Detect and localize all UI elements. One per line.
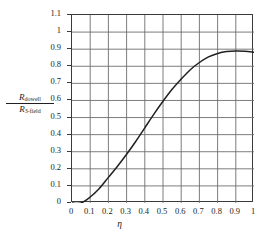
x-axis-label: η xyxy=(0,219,273,229)
x-axis-label-text: η xyxy=(117,219,122,229)
y-tick-label: 0.2 xyxy=(0,162,66,172)
y-tick-label: 0.7 xyxy=(0,76,66,86)
y-tick-label: 0.8 xyxy=(0,59,66,69)
y-tick-label: 0.4 xyxy=(0,128,66,138)
y-tick-label: 0.6 xyxy=(0,93,66,103)
chart-figure: Rdowell R3-field 00.10.20.30.40.50.60.70… xyxy=(0,0,273,243)
y-tick-label: 0.3 xyxy=(0,145,66,155)
y-tick-label: 0.1 xyxy=(0,179,66,189)
plot-area xyxy=(71,14,253,202)
data-curve xyxy=(72,15,254,203)
series-line xyxy=(72,51,254,203)
y-tick-label: 0.9 xyxy=(0,42,66,52)
y-tick-label: 0 xyxy=(0,196,66,206)
x-tick-label: 1 xyxy=(242,206,264,216)
y-tick-label: 1.1 xyxy=(0,8,66,18)
y-tick-label: 0.5 xyxy=(0,111,66,121)
y-tick-label: 1 xyxy=(0,25,66,35)
y-tick-mark xyxy=(67,202,71,203)
